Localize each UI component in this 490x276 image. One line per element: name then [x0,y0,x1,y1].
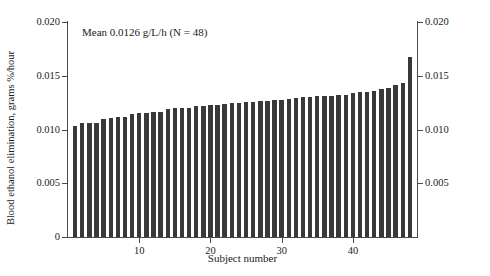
bar [258,101,262,237]
bar [80,123,84,237]
y-tick-label-right: 0.015 [425,71,449,82]
bar [322,96,326,237]
bar [230,103,234,237]
bar [301,97,305,237]
bar [151,112,155,237]
mean-annotation: Mean 0.0126 g/L/h (N = 48) [82,27,207,38]
bar [109,118,113,237]
bar [73,126,77,237]
x-axis-title: Subject number [68,253,417,264]
bar [401,83,405,237]
bar [173,108,177,237]
bar [379,89,383,237]
y-tick-right [418,130,423,131]
x-tick [139,238,140,243]
bar-series [68,22,417,237]
bar [251,102,255,237]
bar [351,93,355,237]
y-axis-tick-labels-left: 00.0050.0100.0150.020 [16,22,60,237]
y-tick-label-left: 0.005 [36,178,60,189]
y-tick-label-left: 0.010 [36,125,60,136]
bar [272,100,276,237]
bar [94,123,98,237]
y-tick-left [62,22,67,23]
bar [130,114,134,237]
y-tick-label-left: 0 [55,232,60,243]
chart-figure: Blood ethanol elimination, grams %/hour … [0,0,490,276]
bar [279,100,283,237]
bar [315,96,319,237]
bar [194,106,198,237]
y-tick-label-right: 0.005 [425,178,449,189]
y-tick-left [62,183,67,184]
y-tick-right [418,22,423,23]
bar [208,105,212,237]
bar [344,95,348,237]
bar [365,92,369,237]
y-tick-label-left: 0.015 [36,71,60,82]
y-axis-tick-labels-right: 0.0050.0100.0150.020 [425,22,473,237]
x-tick [282,238,283,243]
bar [372,91,376,237]
bar [180,108,184,237]
bar [222,104,226,237]
bar [101,119,105,237]
x-axis-line [67,237,418,238]
bar [244,102,248,237]
bar [187,108,191,237]
bar [386,88,390,237]
bar [393,85,397,237]
y-tick-left [62,130,67,131]
bar [336,95,340,237]
x-tick [210,238,211,243]
bar [287,99,291,237]
y-tick-right [418,183,423,184]
bar [137,113,141,237]
bar [329,96,333,237]
bar [144,113,148,237]
y-tick-label-left: 0.020 [36,17,60,28]
y-tick-right [418,76,423,77]
plot-area: 10203040 [68,22,417,237]
bar [265,101,269,237]
bar [237,103,241,237]
y-axis-title-text: Blood ethanol elimination, grams %/hour [6,51,17,225]
bar [358,92,362,237]
y-tick-label-right: 0.020 [425,17,449,28]
bar [123,117,127,237]
bar [201,106,205,237]
bar [215,105,219,237]
bar [166,109,170,237]
x-tick [353,238,354,243]
bar [87,123,91,237]
y-tick-left [62,76,67,77]
y-tick-left [62,237,67,238]
bar [408,57,412,237]
y-tick-label-right: 0.010 [425,125,449,136]
bar [116,117,120,237]
bar [294,98,298,237]
bar [308,97,312,237]
bar [158,112,162,237]
